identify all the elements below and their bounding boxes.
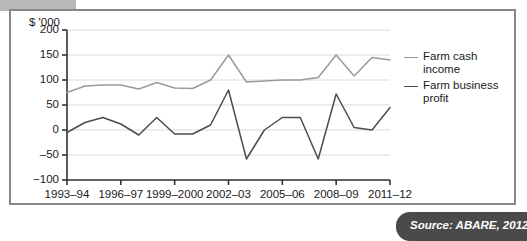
y-axis-tick-label: 100	[23, 74, 59, 85]
legend-label: Farm business profit	[423, 79, 516, 105]
chart-legend: Farm cash income Farm business profit	[404, 50, 516, 108]
y-axis-tick-label: −100	[23, 174, 59, 185]
y-axis-tick-label: ‒50	[23, 149, 59, 160]
source-badge-text: Source: ABARE, 2012	[410, 219, 527, 231]
chart-screenshot: $ '000 200150100500‒50−100 1993–941996–9…	[0, 0, 527, 241]
legend-item-farm-business-profit: Farm business profit	[404, 79, 516, 105]
legend-line-swatch-icon	[404, 57, 418, 58]
x-axis-tick-label: 2011–12	[358, 189, 422, 200]
legend-label: Farm cash income	[423, 50, 516, 76]
y-axis-tick-label: 0	[23, 124, 59, 135]
y-axis-tick-label: 200	[23, 24, 59, 35]
source-badge: Source: ABARE, 2012	[396, 212, 527, 241]
line-chart-plot	[0, 0, 527, 241]
legend-line-swatch-icon	[404, 86, 418, 87]
legend-item-farm-cash-income: Farm cash income	[404, 50, 516, 76]
y-axis-tick-label: 150	[23, 49, 59, 60]
y-axis-tick-label: 50	[23, 99, 59, 110]
